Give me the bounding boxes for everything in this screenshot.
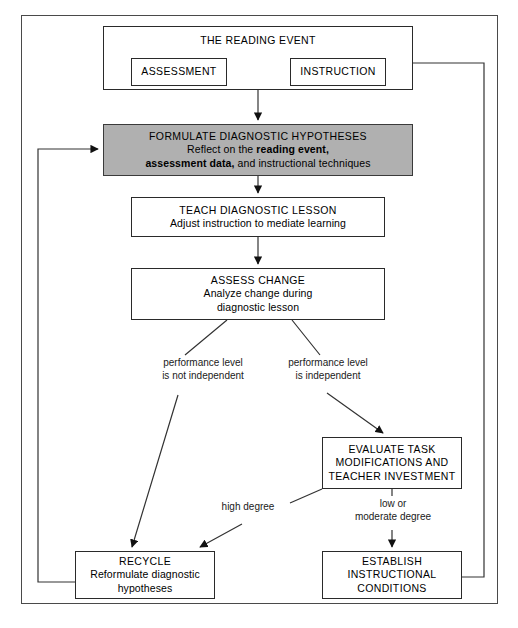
edge-label-independent-line2: is independent: [268, 369, 388, 382]
node-instruction[interactable]: INSTRUCTION: [290, 58, 386, 86]
node-recycle-title: RECYCLE: [119, 555, 171, 568]
flowchart-canvas: THE READING EVENT ASSESSMENT INSTRUCTION…: [0, 0, 518, 628]
node-assess-change[interactable]: ASSESS CHANGE Analyze change during diag…: [131, 268, 385, 320]
node-establish-instructional-conditions[interactable]: ESTABLISH INSTRUCTIONAL CONDITIONS: [322, 551, 462, 599]
edge-label-not-independent-line1: performance level: [143, 356, 263, 369]
node-formulate-line2-bold: reading event,: [256, 143, 329, 155]
edge-label-not-independent: performance level is not independent: [143, 356, 263, 382]
edge-label-low-moderate-line2: moderate degree: [343, 510, 443, 523]
node-teach-diagnostic-lesson[interactable]: TEACH DIAGNOSTIC LESSON Adjust instructi…: [131, 197, 385, 237]
node-assessment[interactable]: ASSESSMENT: [131, 58, 227, 86]
node-formulate-line3: assessment data, and instructional techn…: [145, 157, 370, 170]
edge-label-independent: performance level is independent: [268, 356, 388, 382]
node-establish-line1: ESTABLISH: [362, 555, 422, 568]
node-recycle[interactable]: RECYCLE Reformulate diagnostic hypothese…: [75, 551, 215, 599]
node-recycle-line3: hypotheses: [118, 582, 173, 595]
node-evaluate-line3: TEACHER INVESTMENT: [328, 470, 455, 483]
node-instruction-title: INSTRUCTION: [300, 65, 376, 78]
node-establish-line3: CONDITIONS: [357, 582, 426, 595]
edge-label-low-moderate-line1: low or: [343, 497, 443, 510]
node-evaluate-task-modifications[interactable]: EVALUATE TASK MODIFICATIONS AND TEACHER …: [322, 437, 462, 489]
node-formulate-diagnostic-hypotheses[interactable]: FORMULATE DIAGNOSTIC HYPOTHESES Reflect …: [103, 124, 413, 176]
node-assessment-title: ASSESSMENT: [141, 65, 216, 78]
node-assess-title: ASSESS CHANGE: [211, 274, 305, 287]
edge-label-independent-line1: performance level: [268, 356, 388, 369]
node-formulate-line3-bold: assessment data,: [145, 157, 234, 169]
node-formulate-line3-post: and instructional techniques: [235, 157, 371, 169]
node-reading-event-title: THE READING EVENT: [200, 34, 316, 47]
node-teach-title: TEACH DIAGNOSTIC LESSON: [179, 204, 336, 217]
node-evaluate-line2: MODIFICATIONS AND: [335, 456, 448, 469]
edge-label-low-moderate-degree: low or moderate degree: [343, 497, 443, 523]
node-teach-line2: Adjust instruction to mediate learning: [170, 217, 346, 230]
node-establish-line2: INSTRUCTIONAL: [347, 568, 436, 581]
edge-label-not-independent-line2: is not independent: [143, 369, 263, 382]
node-evaluate-line1: EVALUATE TASK: [348, 443, 435, 456]
node-assess-line3: diagnostic lesson: [217, 301, 299, 314]
node-formulate-line2: Reflect on the reading event,: [187, 143, 329, 156]
node-recycle-line2: Reformulate diagnostic: [90, 568, 200, 581]
edge-label-high-degree-line1: high degree: [208, 500, 288, 513]
node-formulate-line2-pre: Reflect on the: [187, 143, 256, 155]
edge-label-high-degree: high degree: [208, 500, 288, 513]
node-assess-line2: Analyze change during: [204, 287, 313, 300]
node-formulate-title: FORMULATE DIAGNOSTIC HYPOTHESES: [149, 130, 367, 143]
